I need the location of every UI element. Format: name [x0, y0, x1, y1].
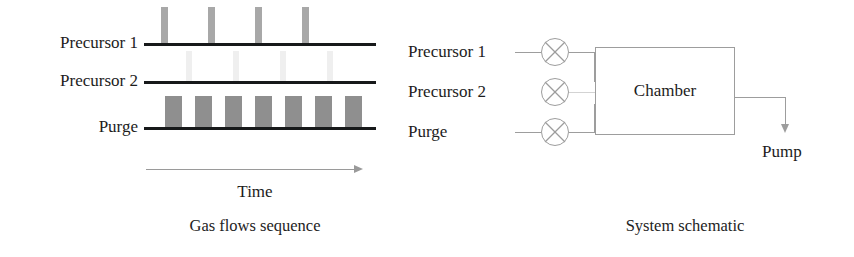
trace-purge — [144, 96, 376, 131]
manifold-wire-purge-horizontal — [569, 132, 595, 133]
pulse-train-purge — [144, 96, 376, 127]
pulse-bar — [327, 51, 333, 81]
pulse-bar — [315, 96, 332, 127]
valve-precursor-2[interactable] — [541, 78, 569, 106]
system-schematic-caption: System schematic — [560, 216, 810, 236]
chamber-label: Chamber — [634, 81, 696, 101]
gas-flow-sequence-panel: Precursor 1 Precursor 2 Purge — [0, 0, 427, 257]
timing-label-precursor-1: Precursor 1 — [10, 34, 138, 51]
valve-cross-icon — [542, 79, 568, 105]
pulse-bar — [280, 51, 286, 81]
chamber-box[interactable]: Chamber — [595, 47, 735, 135]
trace-precursor-2 — [144, 50, 376, 84]
pulse-bar — [345, 96, 362, 127]
arrow-right-icon — [354, 165, 363, 173]
system-schematic-panel: Precursor 1 Precursor 2 Purge — [400, 0, 854, 257]
pulse-train-precursor-2 — [144, 50, 376, 81]
time-axis-label: Time — [180, 182, 330, 202]
pulse-bar — [255, 7, 262, 43]
pump-label: Pump — [762, 143, 802, 160]
trace-precursor-1 — [144, 5, 376, 46]
pulse-train-precursor-1 — [144, 5, 376, 43]
schematic-label-precursor-1: Precursor 1 — [408, 43, 486, 60]
valve-cross-icon — [542, 39, 568, 65]
time-axis-line — [146, 169, 355, 170]
inlet-wire-purge — [515, 132, 541, 133]
manifold-wire-precursor-1-horizontal — [569, 52, 595, 53]
pulse-bar — [233, 51, 239, 81]
pulse-bar — [186, 51, 192, 81]
timing-label-precursor-2: Precursor 2 — [10, 72, 138, 89]
pump-wire-horizontal — [735, 97, 786, 98]
pulse-bar — [302, 7, 309, 43]
pulse-bar — [208, 7, 215, 43]
pulse-bar — [161, 7, 168, 43]
pulse-bar — [195, 96, 212, 127]
baseline-precursor-1 — [144, 43, 376, 46]
pulse-bar — [255, 96, 272, 127]
gas-flow-sequence-caption: Gas flows sequence — [130, 216, 380, 236]
arrow-down-icon — [781, 124, 789, 133]
valve-cross-icon — [542, 119, 568, 145]
ald-process-figure: Precursor 1 Precursor 2 Purge — [0, 0, 854, 257]
inlet-wire-precursor-1 — [515, 52, 541, 53]
valve-precursor-1[interactable] — [541, 38, 569, 66]
pulse-bar — [225, 96, 242, 127]
schematic-label-purge: Purge — [408, 123, 447, 140]
timing-label-purge: Purge — [10, 118, 138, 135]
schematic-label-precursor-2: Precursor 2 — [408, 83, 486, 100]
pulse-bar — [285, 96, 302, 127]
baseline-purge — [144, 127, 376, 130]
pump-wire-vertical — [785, 97, 786, 125]
time-axis — [146, 164, 364, 174]
pulse-bar — [165, 96, 182, 127]
baseline-precursor-2 — [144, 81, 376, 84]
valve-purge[interactable] — [541, 118, 569, 146]
